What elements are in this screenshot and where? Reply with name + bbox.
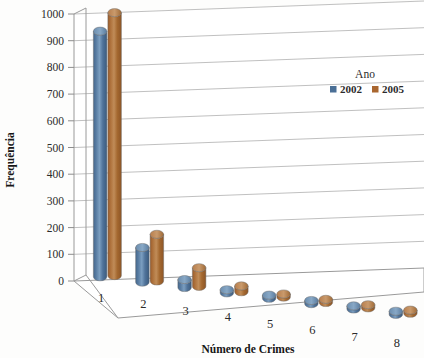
y-tick-label: 400: [47, 168, 65, 180]
legend-label-2002: 2002: [340, 83, 363, 95]
bar-2002-cat-2: [136, 243, 150, 286]
y-tick-label: 800: [47, 61, 65, 73]
x-axis-title: Número de Crimes: [201, 343, 295, 355]
x-tick-label-7: 7: [352, 330, 358, 344]
y-tick-label: 500: [47, 142, 65, 154]
legend-swatch-2005: [372, 86, 379, 93]
bar-2005-cat-6: [319, 295, 333, 306]
legend-swatch-2002: [330, 86, 337, 93]
x-tick-label-5: 5: [267, 317, 273, 331]
y-tick-label: 300: [47, 195, 65, 207]
plot-area: [74, 2, 424, 281]
bar-2005-cat-4: [235, 282, 249, 296]
bar-2002-cat-8: [389, 307, 403, 318]
bar-2002-cat-6: [305, 296, 319, 307]
bar-2005-cat-5: [277, 290, 291, 301]
bar-2005-cat-7: [361, 301, 375, 312]
y-tick-label: 1000: [41, 8, 64, 20]
y-tick-label: 200: [47, 222, 65, 234]
y-tick-label: 100: [47, 248, 65, 260]
y-axis-title: Frequência: [4, 132, 17, 188]
bar-2002-cat-5: [262, 291, 276, 302]
x-tick-label-6: 6: [309, 323, 315, 337]
x-tick-label-4: 4: [225, 310, 232, 324]
bar-2002-cat-4: [220, 286, 234, 297]
bar-2005-cat-1: [108, 9, 122, 280]
y-tick-marks: [68, 14, 74, 281]
y-tick-label: 900: [47, 35, 65, 47]
x-tick-label-3: 3: [183, 304, 189, 318]
y-tick-label: 600: [47, 115, 65, 127]
y-tick-label: 700: [47, 88, 65, 100]
x-tick-label-1: 1: [98, 291, 104, 305]
y-tick-labels: 01002003004005006007008009001000: [41, 8, 64, 287]
bar-2005-cat-2: [150, 230, 164, 285]
bar-chart-3d: 01002003004005006007008009001000 1234567…: [0, 0, 424, 358]
bar-2005-cat-8: [404, 306, 418, 317]
bar-2002-cat-7: [347, 302, 361, 313]
y-tick-label: 0: [58, 275, 64, 287]
bar-2002-cat-1: [93, 27, 107, 281]
bar-2005-cat-3: [192, 264, 206, 291]
x-tick-label-8: 8: [394, 336, 400, 350]
x-tick-label-2: 2: [140, 297, 146, 311]
legend-title: Ano: [355, 68, 375, 80]
bar-2002-cat-3: [178, 275, 192, 291]
legend-label-2005: 2005: [382, 83, 405, 95]
chart-container: 01002003004005006007008009001000 1234567…: [0, 0, 424, 358]
